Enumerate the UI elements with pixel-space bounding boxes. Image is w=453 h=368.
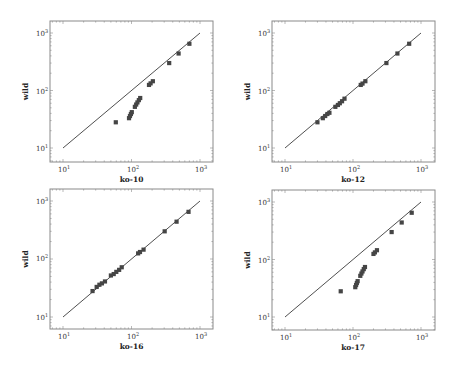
y-tick-label: 101 <box>258 312 270 322</box>
x-tick-label: 101 <box>58 164 70 174</box>
x-tick-label: 102 <box>348 332 360 342</box>
data-point <box>327 111 331 115</box>
x-tick-label: 101 <box>280 332 292 342</box>
data-point <box>151 79 155 83</box>
data-point <box>363 265 367 269</box>
identity-line <box>63 33 200 148</box>
y-tick-label: 101 <box>36 143 48 153</box>
data-point <box>120 265 124 269</box>
x-tick-label: 102 <box>127 331 139 341</box>
x-tick-label: 103 <box>416 332 428 342</box>
data-point <box>375 248 379 252</box>
x-axis-label: ko-12 <box>341 175 365 184</box>
scatter-plot-grid: 101102103101102103ko-10wild1011021031011… <box>0 0 453 368</box>
y-tick-label: 103 <box>258 28 270 38</box>
y-tick-label: 102 <box>36 86 48 96</box>
data-point <box>138 96 142 100</box>
data-point <box>186 210 190 214</box>
scatter-panel-ko-16: 101102103101102103ko-16wild <box>21 189 213 351</box>
data-point <box>130 110 134 114</box>
scatter-panel-ko-10: 101102103101102103ko-10wild <box>21 21 213 184</box>
y-tick-label: 102 <box>258 255 270 265</box>
data-point <box>174 220 178 224</box>
y-tick-label: 103 <box>36 196 48 206</box>
data-point <box>138 250 142 254</box>
data-point <box>163 229 167 233</box>
y-tick-label: 102 <box>258 86 270 96</box>
data-point <box>90 289 94 293</box>
x-tick-label: 103 <box>416 164 428 174</box>
y-tick-label: 103 <box>36 28 48 38</box>
scatter-panel-ko-17: 101102103101102103ko-17wild <box>243 190 435 352</box>
data-point <box>114 120 118 124</box>
data-point <box>176 51 180 55</box>
data-point <box>315 120 319 124</box>
figure-canvas: 101102103101102103ko-10wild1011021031011… <box>0 0 453 368</box>
data-point <box>167 61 171 65</box>
data-point <box>390 230 394 234</box>
x-axis-label: ko-17 <box>341 343 365 352</box>
identity-line <box>63 201 200 317</box>
data-point <box>407 42 411 46</box>
x-tick-label: 102 <box>127 164 139 174</box>
y-tick-label: 101 <box>36 312 48 322</box>
y-tick-label: 102 <box>36 253 48 263</box>
data-point <box>384 61 388 65</box>
data-point <box>363 79 367 83</box>
scatter-panel-ko-12: 101102103101102103ko-12wild <box>243 21 435 184</box>
data-point <box>342 97 346 101</box>
x-tick-label: 103 <box>195 164 207 174</box>
data-point <box>103 279 107 283</box>
x-tick-label: 102 <box>348 164 360 174</box>
y-tick-label: 101 <box>258 143 270 153</box>
x-tick-label: 103 <box>195 331 207 341</box>
y-tick-label: 103 <box>258 197 270 207</box>
y-axis-label: wild <box>21 82 30 101</box>
data-point <box>356 279 360 283</box>
identity-line <box>285 202 421 317</box>
data-point <box>400 220 404 224</box>
data-point <box>410 211 414 215</box>
data-point <box>187 42 191 46</box>
x-axis-label: ko-16 <box>120 342 144 351</box>
x-tick-label: 101 <box>58 331 70 341</box>
y-axis-label: wild <box>243 251 252 270</box>
y-axis-label: wild <box>243 82 252 101</box>
data-point <box>395 51 399 55</box>
data-point <box>141 248 145 252</box>
y-axis-label: wild <box>21 250 30 269</box>
x-axis-label: ko-10 <box>120 175 144 184</box>
x-tick-label: 101 <box>280 164 292 174</box>
data-point <box>339 289 343 293</box>
identity-line <box>285 33 421 148</box>
